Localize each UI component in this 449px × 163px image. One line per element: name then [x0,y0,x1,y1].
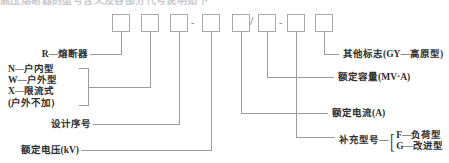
box-2 [142,15,159,32]
label-other-mark: 其他标志(GY—高原型) [343,49,443,60]
label-install-type-2: X—限流式 [8,86,80,97]
supplement-options-stack: F—负荷型 G—改进型 [396,130,443,151]
leader-box-7 [296,32,335,138]
left-square-bracket-icon: [ [390,135,395,147]
label-install-type-0: N—户内型 [8,64,80,75]
box-4 [203,15,220,32]
leader-box-8 [324,32,339,55]
leader-box-1 [90,32,121,55]
box-7 [288,15,305,32]
label-design-serial: 设计序号 [8,119,91,130]
leader-box-2 [88,32,150,88]
label-supplement-option-1: G—改进型 [396,141,443,152]
separator-dash-2: - [279,18,282,29]
box-1 [113,15,130,32]
label-install-type-group: N—户内型 W—户外型 X—限流式 (户外不加) [8,64,80,109]
leader-box-5 [241,32,328,114]
fuse-model-designation-diagram: 高压熔断器的型号含义及各部分代号说明如下 [0,0,449,163]
label-rated-capacity: 额定容量(MV·A) [338,72,410,83]
box-8 [316,15,333,32]
box-3 [171,15,188,32]
label-fuse: R—熔断器 [8,49,88,60]
label-supplement-model-group: 补充型号— [ F—负荷型 G—改进型 [339,130,443,151]
box-5 [233,15,250,32]
label-install-type-3: (户外不加) [8,98,80,109]
separator-dash-1: - [191,18,194,29]
label-rated-current: 额定电流(A) [332,108,385,119]
leader-box-3 [93,32,179,125]
box-6 [259,15,276,32]
leader-box-4 [81,32,211,151]
install-type-brace [79,69,88,106]
label-rated-voltage: 额定电压(kV) [3,145,79,156]
label-supplement-model: 补充型号— [339,135,389,146]
label-supplement-option-0: F—负荷型 [396,130,443,141]
separator-slash-1: / [250,16,253,27]
label-install-type-1: W—户外型 [8,75,80,86]
